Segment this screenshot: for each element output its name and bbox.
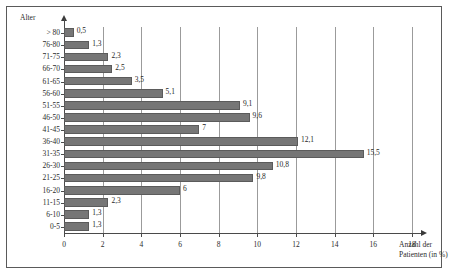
- bar: [64, 53, 108, 62]
- bar-row: 1,3: [64, 221, 412, 233]
- bar-value-label: 2,3: [111, 51, 120, 60]
- x-axis-line: [64, 233, 422, 234]
- x-axis-tick: [257, 233, 258, 237]
- bar-row: 12,1: [64, 136, 412, 148]
- chart-figure: Alter > 8076-8071-7566-7061-6556-6051-55…: [0, 0, 450, 280]
- y-axis-tick: [61, 215, 64, 216]
- bar-value-label: 15,5: [367, 148, 380, 157]
- y-axis-tick: [61, 33, 64, 34]
- bar: [64, 198, 108, 207]
- y-axis-tick: [61, 94, 64, 95]
- bar-value-label: 10,8: [276, 160, 289, 169]
- y-axis-tick: [61, 82, 64, 83]
- plot-area: 0,51,32,32,53,55,19,19,6712,115,510,89,8…: [64, 27, 412, 233]
- bar: [64, 113, 250, 122]
- y-axis-category-label: 6-10: [46, 210, 60, 219]
- y-axis-category-label: 51-55: [43, 101, 61, 110]
- bar-value-label: 3,5: [135, 75, 144, 84]
- y-axis-category-label: 36-40: [43, 137, 61, 146]
- y-axis-category-labels: > 8076-8071-7566-7061-6556-6051-5546-504…: [8, 27, 60, 233]
- bar-value-label: 6: [183, 184, 187, 193]
- bar-row: 9,8: [64, 172, 412, 184]
- y-axis-category-label: 66-70: [43, 64, 61, 73]
- y-axis-tick: [61, 191, 64, 192]
- y-axis-category-label: 21-25: [43, 173, 61, 182]
- bar-value-label: 1,3: [92, 39, 101, 48]
- bar: [64, 210, 89, 219]
- y-axis-tick: [61, 118, 64, 119]
- bar: [64, 222, 89, 231]
- x-axis-tick: [180, 233, 181, 237]
- x-axis-tick: [219, 233, 220, 237]
- x-axis-title: Anzahl der Patienten (in %): [399, 240, 450, 259]
- y-axis-tick: [61, 203, 64, 204]
- bar: [64, 186, 180, 195]
- bar-value-label: 0,5: [77, 26, 86, 35]
- bar: [64, 174, 253, 183]
- y-axis-tick: [61, 69, 64, 70]
- y-axis-tick: [61, 166, 64, 167]
- bar-row: 5,1: [64, 88, 412, 100]
- y-axis-title: Alter: [20, 13, 35, 22]
- x-axis-tick: [373, 233, 374, 237]
- x-axis-tick-label: 8: [217, 240, 221, 249]
- bar-row: 1,3: [64, 39, 412, 51]
- bar-value-label: 9,1: [243, 99, 252, 108]
- y-axis-tick: [61, 178, 64, 179]
- y-axis-category-label: 56-60: [43, 89, 61, 98]
- bar-value-label: 1,3: [92, 220, 101, 229]
- bar-row: 15,5: [64, 148, 412, 160]
- bar-row: 7: [64, 124, 412, 136]
- bar: [64, 125, 199, 134]
- x-gridline: [412, 27, 413, 233]
- x-axis-tick-label: 10: [254, 240, 262, 249]
- y-axis-category-label: 76-80: [43, 40, 61, 49]
- y-axis-category-label: 26-30: [43, 161, 61, 170]
- bar: [64, 162, 273, 171]
- x-axis-tick-label: 12: [292, 240, 300, 249]
- bar-row: 2,3: [64, 197, 412, 209]
- x-axis-arrow-icon: [421, 230, 427, 236]
- y-axis-tick: [61, 57, 64, 58]
- bar-value-label: 5,1: [166, 87, 175, 96]
- y-axis-category-label: 41-45: [43, 125, 61, 134]
- bar-row: 3,5: [64, 75, 412, 87]
- x-axis-tick-label: 16: [370, 240, 378, 249]
- x-axis-tick-label: 4: [139, 240, 143, 249]
- bar-value-label: 9,8: [256, 172, 265, 181]
- y-axis-tick: [61, 45, 64, 46]
- x-axis-tick: [141, 233, 142, 237]
- y-axis-category-label: 16-20: [43, 186, 61, 195]
- y-axis-tick: [61, 142, 64, 143]
- bar-row: 0,5: [64, 27, 412, 39]
- y-axis-tick: [61, 227, 64, 228]
- x-axis-tick: [412, 233, 413, 237]
- bar-value-label: 9,6: [253, 111, 262, 120]
- x-axis-tick: [64, 233, 65, 237]
- x-axis-title-line2: Patienten (in %): [399, 250, 448, 259]
- bar: [64, 41, 89, 50]
- x-axis-tick-label: 14: [331, 240, 339, 249]
- x-axis-tick: [296, 233, 297, 237]
- x-axis-tick-label: 0: [62, 240, 66, 249]
- y-axis-category-label: 31-35: [43, 149, 61, 158]
- bar: [64, 65, 112, 74]
- y-axis-category-label: 71-75: [43, 52, 61, 61]
- bar-value-label: 12,1: [301, 135, 314, 144]
- y-axis-category-label: 0-5: [50, 222, 60, 231]
- bar-value-label: 7: [202, 123, 206, 132]
- bar: [64, 150, 364, 159]
- bar-row: 9,6: [64, 112, 412, 124]
- bar-value-label: 2,5: [115, 63, 124, 72]
- x-axis-tick-label: 2: [101, 240, 105, 249]
- bar: [64, 101, 240, 110]
- y-axis-category-label: > 80: [46, 28, 60, 37]
- bar: [64, 137, 298, 146]
- bar-value-label: 1,3: [92, 208, 101, 217]
- bar: [64, 89, 163, 98]
- x-axis-tick-label: 18: [408, 240, 416, 249]
- bar-row: 2,3: [64, 51, 412, 63]
- y-axis-tick: [61, 130, 64, 131]
- bar-row: 2,5: [64, 63, 412, 75]
- bar-row: 10,8: [64, 160, 412, 172]
